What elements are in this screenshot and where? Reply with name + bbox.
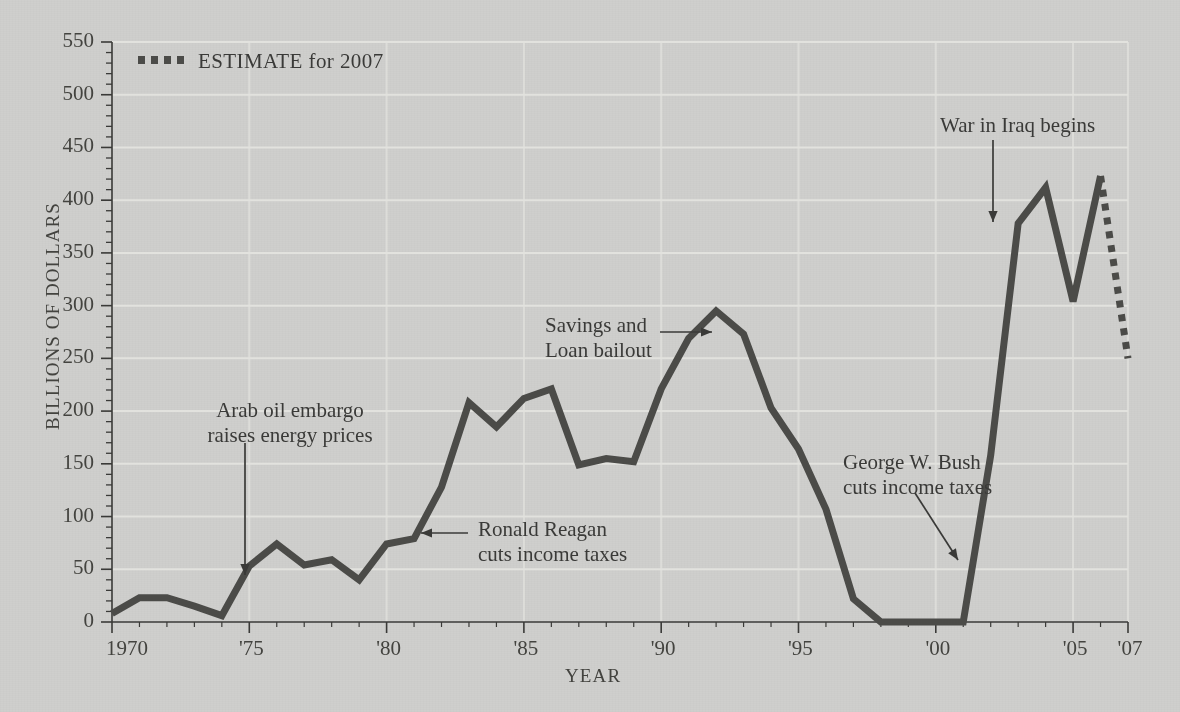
annotation-line: Savings and	[545, 313, 745, 338]
annotation-line: Ronald Reagan	[478, 517, 718, 542]
y-tick-label: 50	[24, 555, 94, 580]
annotation-line: Loan bailout	[545, 338, 745, 363]
legend-item-estimate-label: ESTIMATE for 2007	[198, 49, 384, 74]
y-tick-label: 100	[24, 503, 94, 528]
annotation-savings-and-loan: Savings andLoan bailout	[545, 313, 745, 363]
y-tick-label: 0	[24, 608, 94, 633]
annotation-war-in-iraq: War in Iraq begins	[940, 113, 1160, 138]
x-tick-label: 1970	[106, 636, 162, 661]
x-tick-label: '75	[223, 636, 279, 661]
annotation-line: War in Iraq begins	[940, 113, 1160, 138]
annotation-arab-oil-embargo: Arab oil embargoraises energy prices	[180, 398, 400, 448]
y-tick-label: 350	[24, 239, 94, 264]
annotation-line: raises energy prices	[180, 423, 400, 448]
annotation-line: cuts income taxes	[478, 542, 718, 567]
annotation-george-w-bush: George W. Bushcuts income taxes	[843, 450, 1073, 500]
annotation-line: George W. Bush	[843, 450, 1073, 475]
y-tick-label: 500	[24, 81, 94, 106]
x-tick-label: '95	[772, 636, 828, 661]
annotation-line: cuts income taxes	[843, 475, 1073, 500]
y-tick-label: 300	[24, 292, 94, 317]
annotation-line: Arab oil embargo	[180, 398, 400, 423]
x-tick-label: '80	[361, 636, 417, 661]
x-axis-title: YEAR	[565, 665, 621, 687]
y-tick-label: 550	[24, 28, 94, 53]
y-tick-label: 450	[24, 133, 94, 158]
deficit-line-chart: ESTIMATE for 2007 BILLIONS OF DOLLARS YE…	[0, 0, 1180, 712]
x-tick-label: '85	[498, 636, 554, 661]
x-tick-label: '07	[1102, 636, 1158, 661]
y-tick-label: 200	[24, 397, 94, 422]
x-tick-label: '05	[1047, 636, 1103, 661]
y-tick-label: 150	[24, 450, 94, 475]
annotation-ronald-reagan: Ronald Reagancuts income taxes	[478, 517, 718, 567]
x-tick-label: '00	[910, 636, 966, 661]
x-tick-label: '90	[635, 636, 691, 661]
y-tick-label: 400	[24, 186, 94, 211]
y-tick-label: 250	[24, 344, 94, 369]
